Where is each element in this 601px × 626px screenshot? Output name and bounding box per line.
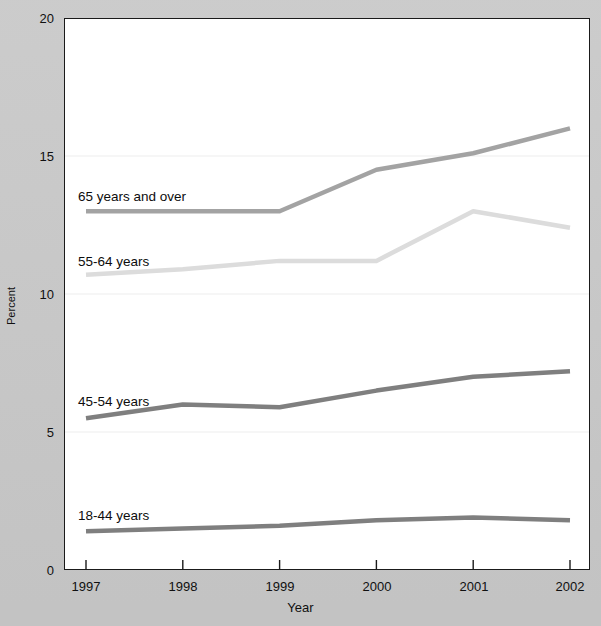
series-label-18-44: 18-44 years [78, 509, 149, 523]
xtick-label-1999: 1999 [250, 580, 310, 593]
ytick-label-5: 5 [8, 426, 54, 439]
xtick-label-2001: 2001 [444, 580, 504, 593]
series-label-65-plus: 65 years and over [78, 190, 186, 204]
series-label-45-54: 45-54 years [78, 395, 149, 409]
y-axis-label: Percent [5, 276, 17, 336]
xtick-label-2000: 2000 [347, 580, 407, 593]
xtick-label-1997: 1997 [56, 580, 116, 593]
xtick-label-2002: 2002 [540, 580, 600, 593]
xtick-label-1998: 1998 [153, 580, 213, 593]
x-axis-label: Year [0, 600, 601, 615]
ytick-label-20: 20 [8, 12, 54, 25]
series-label-55-64: 55-64 years [78, 255, 149, 269]
ytick-label-15: 15 [8, 150, 54, 163]
ytick-label-0: 0 [8, 564, 54, 577]
plot-area [64, 18, 590, 570]
